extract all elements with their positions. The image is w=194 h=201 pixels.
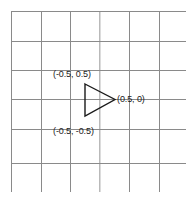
vertex-label-top-left: (-0.5, 0.5) — [53, 69, 91, 79]
vertex-label-bottom-left: (-0.5, -0.5) — [53, 126, 94, 136]
triangle-polygon — [85, 84, 115, 116]
vertex-label-right: (0.5, 0) — [117, 94, 145, 104]
triangle-shape — [0, 0, 194, 201]
coordinate-grid-figure: (-0.5, 0.5) (0.5, 0) (-0.5, -0.5) — [0, 0, 194, 201]
